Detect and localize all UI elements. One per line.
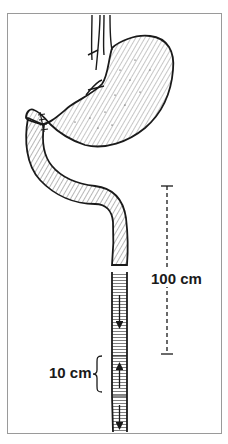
bowel-segment-upper xyxy=(112,272,127,356)
limb-length-label: 100 cm xyxy=(150,270,203,287)
bowel-segment-reversed xyxy=(112,356,127,396)
brace-10cm xyxy=(93,356,102,392)
segment-length-label: 10 cm xyxy=(49,365,92,380)
anatomy-illustration xyxy=(0,0,228,444)
bowel-segment-lower xyxy=(112,396,127,432)
stomach xyxy=(26,36,173,147)
